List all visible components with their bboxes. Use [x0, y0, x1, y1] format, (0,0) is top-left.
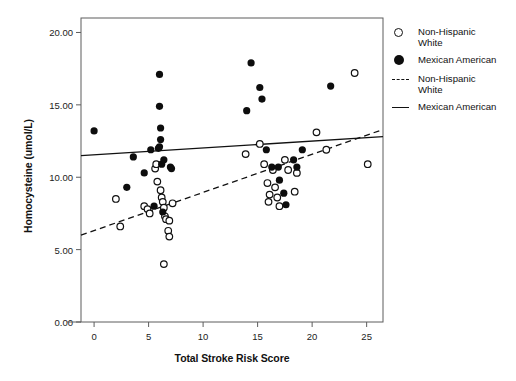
dashed-line-icon [392, 73, 414, 86]
data-point [161, 261, 168, 268]
data-point [276, 203, 283, 210]
data-point [291, 188, 298, 195]
data-point [282, 157, 289, 164]
data-point [146, 210, 153, 217]
data-point [150, 203, 157, 210]
data-point [130, 153, 137, 160]
data-point [147, 146, 154, 153]
legend-label: Mexican American [418, 54, 496, 65]
data-point [90, 127, 97, 134]
scatter-plot-figure: Homocysteine (umol/L) 0.005.0010.0015.00… [0, 0, 516, 381]
data-point [243, 107, 250, 114]
data-point [285, 167, 292, 174]
legend-item-non-hispanic-white-trend: Non-HispanicWhite [392, 73, 516, 96]
data-point [256, 84, 263, 91]
data-point [263, 146, 270, 153]
legend-item-non-hispanic-white-marker: Non-HispanicWhite [392, 26, 516, 49]
data-point [117, 223, 124, 230]
data-point [160, 156, 167, 163]
data-point [264, 180, 271, 187]
data-point [274, 194, 281, 201]
solid-line-icon [392, 101, 414, 114]
data-point [261, 161, 268, 168]
data-point [293, 164, 300, 171]
data-point [156, 143, 163, 150]
data-point [290, 156, 297, 163]
data-point [156, 71, 163, 78]
axis-tick-marks [67, 32, 383, 327]
data-points-non-hispanic-white [113, 70, 371, 268]
data-point [157, 187, 164, 194]
data-point [351, 70, 358, 77]
data-point [313, 129, 320, 136]
data-point [123, 184, 130, 191]
legend-label: Non-HispanicWhite [418, 73, 476, 96]
legend-item-mexican-american-marker: Mexican American [392, 54, 516, 68]
data-point [257, 141, 264, 148]
data-point [154, 178, 161, 185]
data-point [258, 95, 265, 102]
data-point [156, 103, 163, 110]
data-point [272, 184, 279, 191]
legend-label: Non-HispanicWhite [418, 26, 476, 49]
trend-lines [81, 129, 383, 235]
open-circle-icon [392, 26, 414, 39]
data-point [276, 177, 283, 184]
legend: Non-HispanicWhite Mexican American Non-H… [392, 26, 516, 120]
data-point [268, 164, 275, 171]
data-point [113, 196, 120, 203]
data-point [242, 151, 249, 158]
trend-line [81, 137, 383, 156]
data-point [141, 169, 148, 176]
data-point [280, 190, 287, 197]
data-point [166, 233, 173, 240]
legend-item-mexican-american-trend: Mexican American [392, 101, 516, 115]
data-point [157, 124, 164, 131]
data-point [299, 146, 306, 153]
data-point [168, 165, 175, 172]
data-point [169, 200, 176, 207]
data-point [166, 217, 173, 224]
filled-circle-icon [392, 54, 414, 67]
legend-label: Mexican American [418, 101, 496, 112]
data-point [266, 191, 273, 198]
data-point [282, 201, 289, 208]
trend-line [81, 129, 383, 235]
data-point [275, 164, 282, 171]
data-point [364, 161, 371, 168]
data-point [247, 59, 254, 66]
data-point [323, 146, 330, 153]
axis-frame [81, 18, 383, 322]
data-point [157, 136, 164, 143]
data-point [159, 208, 166, 215]
data-point [265, 199, 272, 206]
data-point [327, 82, 334, 89]
